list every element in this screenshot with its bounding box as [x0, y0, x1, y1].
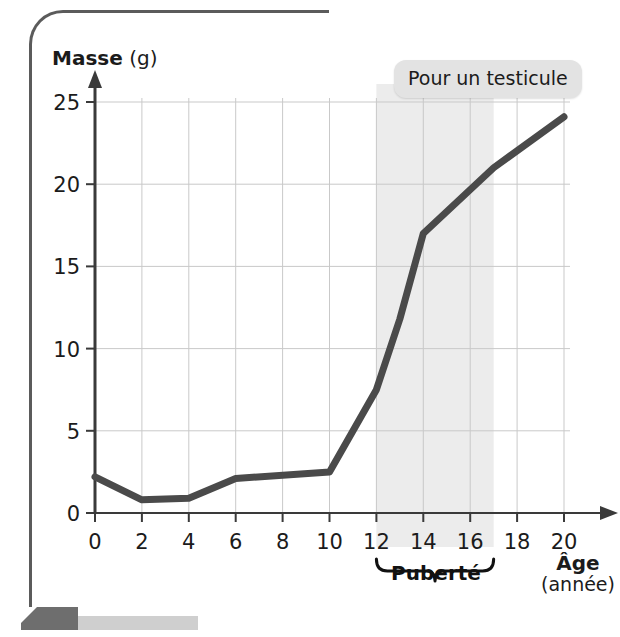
y-tick-label: 15: [53, 255, 80, 279]
x-tick-label: 12: [363, 530, 390, 554]
y-axis-tick-labels: 0510152025: [53, 91, 80, 526]
x-axis-title-main: Âge: [533, 552, 620, 574]
x-tick-label: 6: [229, 530, 242, 554]
y-tick-label: 20: [53, 173, 80, 197]
y-axis-title: Masse (g): [52, 46, 157, 70]
x-tick-label: 16: [457, 530, 484, 554]
x-tick-label: 18: [504, 530, 531, 554]
x-axis-title: Âge (année): [533, 552, 620, 596]
x-tick-label: 10: [316, 530, 343, 554]
y-axis-title-unit: (g): [129, 46, 157, 70]
y-tick-label: 25: [53, 91, 80, 115]
x-axis-title-unit: (année): [533, 574, 620, 595]
figure-root: 0510152025 02468101214161820 Masse (g) Â…: [0, 0, 620, 637]
callout-text: Pour un testicule: [408, 67, 568, 89]
mass-vs-age-chart: 0510152025 02468101214161820 Masse (g) Â…: [0, 0, 620, 637]
y-axis-title-main: Masse: [52, 46, 123, 70]
x-tick-label: 0: [88, 530, 101, 554]
x-axis-arrow: [600, 506, 618, 520]
x-tick-label: 8: [276, 530, 289, 554]
puberty-label: Puberté: [377, 561, 495, 585]
y-tick-label: 0: [67, 502, 80, 526]
y-tick-label: 5: [67, 420, 80, 444]
puberty-shaded-band: [376, 84, 493, 547]
horizontal-gridlines: [95, 102, 570, 431]
x-tick-label: 2: [135, 530, 148, 554]
callout-box: Pour un testicule: [394, 60, 582, 98]
x-tick-label: 4: [182, 530, 195, 554]
y-axis-arrow: [88, 70, 102, 88]
x-axis-tick-labels: 02468101214161820: [88, 530, 577, 554]
y-tick-label: 10: [53, 338, 80, 362]
x-tick-label: 14: [410, 530, 437, 554]
